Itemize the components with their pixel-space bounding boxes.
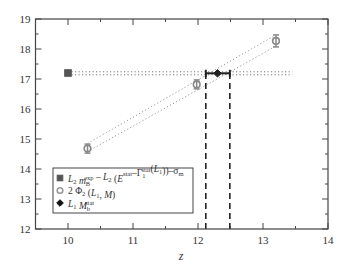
legend-label-part: 1 (142, 172, 145, 179)
square-marker (57, 175, 63, 181)
y-tick-label: 17 (20, 73, 32, 85)
legend-label-part: m (178, 170, 183, 177)
diamond-marker (214, 70, 222, 78)
diagonal-dotted-line (88, 46, 277, 152)
legend: L2 mBexp – L2 (Estat–Γ1stat(L1))–σm2 Φ2 … (53, 164, 193, 214)
y-tick-label: 18 (20, 43, 32, 55)
x-tick-label: 13 (258, 234, 270, 246)
data-points (65, 35, 280, 153)
y-tick-label: 16 (20, 103, 32, 115)
y-tick-label: 13 (20, 193, 32, 205)
x-tick-label: 11 (128, 234, 139, 246)
y-tick-label: 14 (20, 163, 32, 175)
legend-label-part: exp (84, 174, 93, 181)
y-tick-label: 15 (20, 133, 32, 145)
y-tick-label: 12 (20, 223, 31, 235)
x-tick-label: 14 (323, 234, 335, 246)
square-marker (65, 70, 72, 77)
legend-label-part: stat (123, 170, 132, 177)
legend-label-part: stat (141, 166, 150, 173)
legend-label-part: b (87, 205, 90, 212)
chart: 10111213141213141516171819 L2 mBexp – L2… (0, 0, 349, 269)
legend-label-part: – (94, 172, 104, 182)
legend-label-part: ) (112, 190, 115, 201)
legend-label-part: ))–σ (162, 166, 178, 177)
diagonal-dotted-line (88, 36, 275, 144)
legend-label-part: B (86, 180, 91, 187)
x-tick-label: 10 (63, 234, 75, 246)
y-tick-label: 19 (20, 13, 32, 25)
legend-label-part: stat (85, 199, 94, 206)
x-axis-label: z (178, 249, 184, 263)
legend-label-part: 2 Φ (68, 186, 82, 196)
x-tick-label: 12 (193, 234, 204, 246)
